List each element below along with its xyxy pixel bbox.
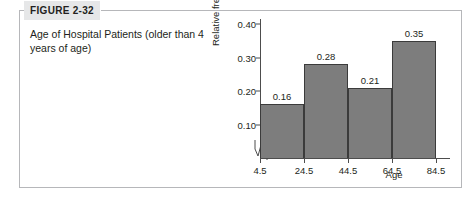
y-axis-title: Relative frequency [210, 0, 221, 46]
x-axis-line [260, 158, 450, 159]
histogram-bar [304, 64, 348, 158]
frame-border-left [19, 10, 20, 188]
figure-number-tag: FIGURE 2-32 [24, 1, 100, 20]
x-tick-mark [304, 158, 305, 163]
y-tick-label: 0.40 [238, 19, 257, 30]
bar-value-label: 0.16 [273, 91, 292, 102]
x-tick-mark [392, 158, 393, 163]
figure-caption: Age of Hospital Patients (older than 4 y… [30, 27, 205, 55]
figure-container: FIGURE 2-32 Age of Hospital Patients (ol… [0, 0, 470, 198]
x-tick-label: 24.5 [295, 165, 314, 176]
x-tick-mark [348, 158, 349, 163]
histogram-bar [260, 104, 304, 158]
x-tick-label: 4.5 [253, 165, 266, 176]
y-tick-label: 0.10 [238, 119, 257, 130]
y-tick-label: 0.20 [238, 86, 257, 97]
x-axis-title: Age [364, 169, 424, 180]
y-tick-mark [256, 91, 261, 92]
x-tick-label: 84.5 [427, 165, 446, 176]
y-tick-mark [256, 24, 261, 25]
y-tick-label: 0.30 [238, 52, 257, 63]
histogram-bar [392, 41, 436, 158]
histogram-bar [348, 88, 392, 158]
plot-area: 0.400.300.200.10 0.160.280.210.35 4.524.… [260, 24, 436, 158]
bar-value-label: 0.35 [405, 28, 424, 39]
bar-value-label: 0.21 [361, 75, 380, 86]
figure-number-label: FIGURE 2-32 [30, 5, 94, 16]
x-tick-mark [436, 158, 437, 163]
x-tick-label: 44.5 [339, 165, 358, 176]
frame-border-top-right [101, 10, 462, 11]
y-tick-mark [256, 57, 261, 58]
bar-value-label: 0.28 [317, 51, 336, 62]
histogram-chart: Relative frequency 0.400.300.200.10 0.16… [214, 16, 462, 188]
x-tick-mark [260, 158, 261, 163]
